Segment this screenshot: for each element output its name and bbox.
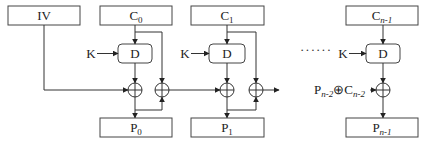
decrypt-block-d0: D	[118, 44, 152, 63]
plaintext-block-p0: P0	[100, 118, 172, 137]
d1-label: D	[222, 46, 231, 61]
ellipsis: ······	[300, 42, 332, 57]
cn1-subscript: n-1	[380, 15, 392, 25]
key-label-n-1: K	[338, 46, 348, 61]
d0-label: D	[130, 46, 139, 61]
ciphertext-block-c0: C0	[100, 6, 172, 25]
decrypt-block-d1: D	[209, 44, 245, 63]
c1-subscript: 1	[229, 15, 234, 25]
ciphertext-block-cn-1: Cn-1	[346, 6, 418, 25]
arrow-p0-to-chain-xor	[135, 97, 162, 110]
iv-label: IV	[37, 8, 51, 23]
dn1-label: D	[378, 46, 387, 61]
c0-label: C	[129, 8, 138, 23]
decrypt-block-dn-1: D	[366, 44, 400, 63]
pcbc-decryption-diagram: IV C0 C1 Cn-1 D D D K K K	[0, 0, 425, 148]
key-label-0: K	[86, 46, 96, 61]
c1-label: C	[220, 8, 229, 23]
arrow-p1-to-chain-xor	[227, 97, 256, 110]
chain-input-label: Pn-2⊕Cn-2	[314, 82, 365, 99]
c0-subscript: 0	[138, 15, 143, 25]
plaintext-block-p1: P1	[191, 118, 264, 137]
ciphertext-block-c1: C1	[191, 6, 264, 25]
key-label-1: K	[180, 46, 190, 61]
plaintext-block-pn-1: Pn-1	[346, 118, 418, 137]
cn1-label: C	[372, 8, 381, 23]
iv-block: IV	[8, 6, 80, 25]
